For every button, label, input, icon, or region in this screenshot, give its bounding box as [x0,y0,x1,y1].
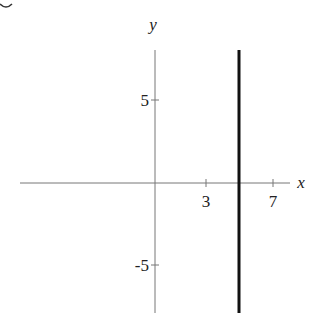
y-tick-label-5: 5 [141,91,150,110]
cropped-glyph [0,4,12,7]
x-tick-label-3: 3 [202,192,211,211]
x-axis-label: x [296,173,305,192]
y-tick-label-neg5: -5 [135,256,149,275]
graph: y x 3 7 5 -5 [0,0,316,320]
y-axis-label: y [147,15,157,34]
x-tick-label-7: 7 [269,192,278,211]
